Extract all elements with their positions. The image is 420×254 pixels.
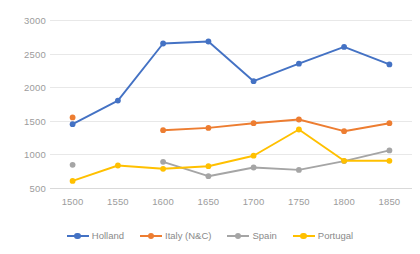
chart-legend: HollandItaly (N&C)SpainPortugal <box>0 230 420 241</box>
data-point <box>115 163 121 169</box>
legend-item-holland[interactable]: Holland <box>67 230 124 241</box>
data-point <box>160 159 166 165</box>
data-point <box>341 128 347 134</box>
data-point <box>70 115 76 121</box>
series-line <box>163 120 389 132</box>
legend-marker-icon <box>67 231 89 240</box>
series-portugal <box>70 127 393 184</box>
legend-marker-icon <box>227 231 249 240</box>
data-point <box>70 162 76 168</box>
data-point <box>341 44 347 50</box>
legend-label: Spain <box>252 230 276 241</box>
data-point <box>251 153 257 159</box>
data-point <box>387 120 393 126</box>
legend-label: Holland <box>92 230 124 241</box>
data-point <box>296 61 302 67</box>
data-point <box>296 117 302 123</box>
data-point <box>251 165 257 171</box>
data-point <box>160 41 166 47</box>
legend-item-italy-n-c[interactable]: Italy (N&C) <box>140 230 211 241</box>
series-line <box>73 42 390 125</box>
data-point <box>70 178 76 184</box>
series-italy-n-c <box>70 115 393 135</box>
data-point <box>251 120 257 126</box>
legend-marker-icon <box>140 231 162 240</box>
data-point <box>115 98 121 104</box>
legend-label: Italy (N&C) <box>165 230 211 241</box>
data-point <box>387 148 393 154</box>
data-point <box>160 127 166 133</box>
data-point <box>341 158 347 164</box>
line-chart: 30002500200015001000500 1500155016001650… <box>0 0 420 254</box>
legend-marker-icon <box>293 231 315 240</box>
data-point <box>296 127 302 133</box>
data-point <box>160 166 166 172</box>
data-point <box>206 163 212 169</box>
data-point <box>251 78 257 84</box>
series-holland <box>70 39 393 128</box>
data-point <box>206 173 212 179</box>
data-point <box>296 167 302 173</box>
data-point <box>387 158 393 164</box>
plot-area <box>0 0 420 254</box>
data-point <box>206 125 212 131</box>
legend-item-portugal[interactable]: Portugal <box>293 230 353 241</box>
data-point <box>387 62 393 68</box>
data-point <box>206 39 212 45</box>
series-line <box>73 130 390 181</box>
legend-label: Portugal <box>318 230 353 241</box>
legend-item-spain[interactable]: Spain <box>227 230 276 241</box>
data-point <box>70 121 76 127</box>
series-line <box>163 150 389 176</box>
